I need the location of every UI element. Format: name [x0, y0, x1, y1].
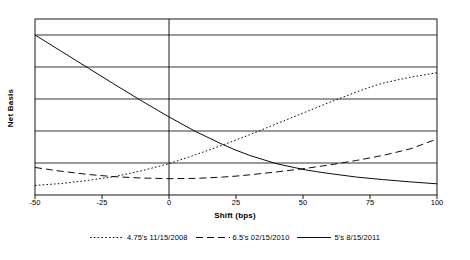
chart-container: 10.020.030.040.050.0 -50-250255075100 Ne… — [0, 0, 470, 260]
gridlines — [35, 35, 437, 163]
legend-line-swatch — [90, 233, 124, 242]
series-line — [35, 73, 437, 186]
chart-legend: 4.75's 11/15/20086.5's 02/15/20105's 8/1… — [0, 233, 470, 242]
chart-plot-area — [0, 0, 470, 260]
x-tick-label: 25 — [232, 198, 240, 207]
legend-line-swatch — [196, 233, 230, 242]
series-line — [35, 35, 437, 184]
legend-label: 5's 8/15/2011 — [334, 233, 380, 242]
legend-label: 4.75's 11/15/2008 — [127, 233, 188, 242]
x-tick-label: -25 — [97, 198, 108, 207]
legend-item[interactable]: 5's 8/15/2011 — [297, 233, 380, 242]
x-tick-label: 0 — [167, 198, 171, 207]
y-axis-title: Net Basis — [6, 78, 15, 138]
legend-line-swatch — [297, 233, 331, 242]
legend-label: 6.5's 02/15/2010 — [233, 233, 290, 242]
plot-border — [35, 19, 437, 195]
x-axis-title: Shift (bps) — [0, 211, 470, 220]
x-tick-label: 50 — [299, 198, 307, 207]
legend-item[interactable]: 6.5's 02/15/2010 — [196, 233, 290, 242]
legend-item[interactable]: 4.75's 11/15/2008 — [90, 233, 188, 242]
x-tick-label: -50 — [30, 198, 41, 207]
x-tick-label: 75 — [366, 198, 374, 207]
plot-frame — [35, 19, 437, 195]
x-tick-label: 100 — [431, 198, 444, 207]
series-line — [35, 139, 437, 179]
